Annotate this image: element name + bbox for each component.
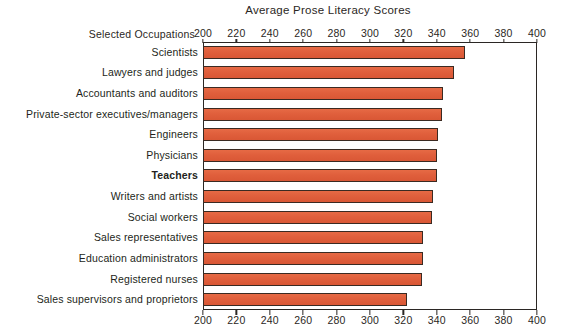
bar — [203, 149, 437, 162]
bar-row: Lawyers and judges — [0, 63, 566, 84]
y-axis-caption: Selected Occupations — [10, 28, 195, 40]
bar — [203, 108, 442, 121]
bar — [203, 273, 422, 286]
category-label: Physicians — [6, 150, 198, 161]
category-label: Teachers — [6, 170, 198, 181]
bar-row: Education administrators — [0, 248, 566, 269]
x-tick-label-300: 300 — [361, 314, 379, 326]
category-label: Sales representatives — [6, 232, 198, 243]
x-tick-label-340: 340 — [428, 314, 446, 326]
bar — [203, 46, 465, 59]
category-label: Education administrators — [6, 253, 198, 264]
bar-row: Sales supervisors and proprietors — [0, 289, 566, 310]
bar-fill — [204, 150, 436, 161]
bar — [203, 252, 423, 265]
x-tick-label-320: 320 — [394, 314, 412, 326]
x-tick-label-260: 260 — [294, 314, 312, 326]
bar-row: Writers and artists — [0, 186, 566, 207]
bar — [203, 87, 443, 100]
category-label: Sales supervisors and proprietors — [6, 294, 198, 305]
bar — [203, 128, 438, 141]
bar-row: Registered nurses — [0, 269, 566, 290]
bar-fill — [204, 232, 422, 243]
prose-literacy-bar-chart: Average Prose Literacy Scores Selected O… — [0, 0, 566, 335]
bar-fill — [204, 294, 406, 305]
x-tick-label-360: 360 — [461, 314, 479, 326]
bar-rows-container: ScientistsLawyers and judgesAccountants … — [0, 42, 566, 310]
bar-fill — [204, 170, 436, 181]
bar — [203, 190, 433, 203]
bar-row: Teachers — [0, 166, 566, 187]
category-label: Lawyers and judges — [6, 67, 198, 78]
x-tick-label-200: 200 — [194, 314, 212, 326]
bar-row: Sales representatives — [0, 228, 566, 249]
category-label: Accountants and auditors — [6, 88, 198, 99]
bar — [203, 293, 407, 306]
x-tick-label-240: 240 — [261, 314, 279, 326]
bar — [203, 211, 432, 224]
bar-fill — [204, 253, 422, 264]
x-tick-label-400: 400 — [528, 314, 546, 326]
bar — [203, 169, 437, 182]
bar-row: Physicians — [0, 145, 566, 166]
bar-row: Accountants and auditors — [0, 83, 566, 104]
x-axis-tick-labels-bottom: 200220240260280300320340360380400 — [203, 314, 537, 328]
category-label: Social workers — [6, 212, 198, 223]
bar-row: Social workers — [0, 207, 566, 228]
category-label: Engineers — [6, 129, 198, 140]
x-tick-label-220: 220 — [227, 314, 245, 326]
bar — [203, 66, 454, 79]
x-tick-label-280: 280 — [328, 314, 346, 326]
chart-title: Average Prose Literacy Scores — [0, 4, 566, 16]
bar-fill — [204, 109, 441, 120]
bar-fill — [204, 129, 437, 140]
category-label: Scientists — [6, 47, 198, 58]
bar-row: Scientists — [0, 42, 566, 63]
bar-row: Engineers — [0, 124, 566, 145]
category-label: Registered nurses — [6, 274, 198, 285]
bar-fill — [204, 88, 442, 99]
category-label: Writers and artists — [6, 191, 198, 202]
bar — [203, 231, 423, 244]
x-tick-label-380: 380 — [495, 314, 513, 326]
bar-fill — [204, 191, 432, 202]
category-label: Private-sector executives/managers — [6, 109, 198, 120]
bar-row: Private-sector executives/managers — [0, 104, 566, 125]
bar-fill — [204, 67, 453, 78]
bar-fill — [204, 274, 421, 285]
bar-fill — [204, 47, 464, 58]
bar-fill — [204, 212, 431, 223]
